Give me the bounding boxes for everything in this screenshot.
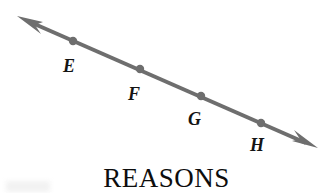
point-label-H: H	[250, 136, 264, 154]
point-dot-H	[257, 119, 265, 127]
point-label-F: F	[128, 85, 140, 103]
point-dot-G	[197, 92, 205, 100]
geometry-figure: E F G H REASONS	[0, 0, 333, 193]
point-dot-F	[136, 65, 144, 73]
figure-caption: REASONS	[0, 164, 333, 192]
point-dot-E	[69, 37, 77, 45]
point-label-E: E	[63, 57, 75, 75]
point-label-G: G	[188, 110, 201, 128]
